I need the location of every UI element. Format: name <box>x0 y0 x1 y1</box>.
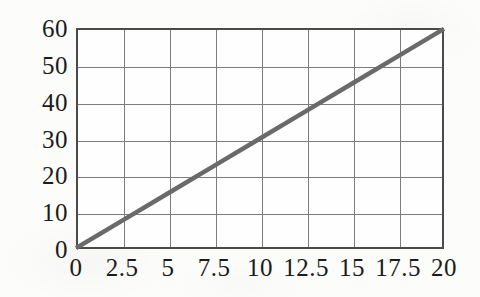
series-line-0 <box>78 30 442 247</box>
chart-figure: 0102030405060 02.557.51012.51517.520 <box>0 0 480 297</box>
plot-area <box>76 28 444 249</box>
x-tick-label: 15 <box>339 255 365 280</box>
y-axis-tick-labels: 0102030405060 <box>0 28 68 249</box>
y-tick-label: 20 <box>42 163 68 188</box>
x-tick-label: 7.5 <box>198 255 231 280</box>
x-tick-label: 12.5 <box>283 255 329 280</box>
x-axis-tick-labels: 02.557.51012.51517.520 <box>76 255 444 289</box>
y-tick-label: 0 <box>55 237 68 262</box>
x-tick-label: 17.5 <box>375 255 421 280</box>
x-tick-label: 5 <box>162 255 175 280</box>
y-tick-label: 10 <box>42 200 68 225</box>
x-tick-label: 0 <box>70 255 83 280</box>
y-tick-label: 60 <box>42 16 68 41</box>
data-series-line <box>78 30 442 247</box>
y-tick-label: 50 <box>42 52 68 77</box>
y-tick-label: 30 <box>42 126 68 151</box>
y-tick-label: 40 <box>42 89 68 114</box>
x-tick-label: 20 <box>431 255 457 280</box>
x-tick-label: 2.5 <box>106 255 139 280</box>
x-tick-label: 10 <box>247 255 273 280</box>
